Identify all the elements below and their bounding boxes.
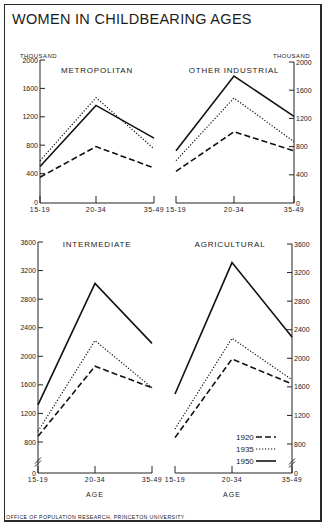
y-tick-label: 800: [296, 143, 308, 150]
y-tick-label: 1200: [296, 115, 312, 122]
x-tick-label: 35-49: [144, 206, 164, 213]
unit-label-right: THOUSAND: [273, 53, 310, 59]
series-line-1920: [38, 366, 152, 436]
x-tick-label: 35-49: [142, 476, 162, 483]
y-tick-label: 0: [32, 470, 36, 477]
y-tick-label: 1600: [294, 383, 310, 390]
legend-label-1950: 1950: [236, 457, 254, 466]
x-tick-label: 15-19: [165, 476, 185, 483]
y-tick-label: 1600: [296, 87, 312, 94]
legend-label-1935: 1935: [236, 445, 254, 454]
x-tick-label: 20-34: [86, 206, 106, 213]
series-line-1935: [38, 341, 152, 432]
y-tick-label: 400: [26, 170, 38, 177]
y-tick-label: 2000: [294, 355, 310, 362]
series-line-1920: [176, 132, 294, 172]
chart-panel-metropolitan: 15-1920-3435-490400800120016002000METROP…: [22, 57, 164, 214]
y-tick-label: 3200: [294, 269, 310, 276]
y-tick-label: 1600: [22, 85, 38, 92]
y-tick-label: 0: [294, 470, 298, 477]
panel-title: INTERMEDIATE: [63, 240, 132, 249]
series-line-1920: [40, 147, 154, 178]
panel-title: METROPOLITAN: [61, 66, 133, 75]
y-tick-label: 800: [26, 142, 38, 149]
y-tick-label: 2800: [294, 298, 310, 305]
source-credit: OFFICE OF POPULATION RESEARCH, PRINCETON…: [6, 514, 185, 520]
y-tick-label: 3200: [20, 267, 36, 274]
y-tick-label: 1200: [294, 412, 310, 419]
panel-title: OTHER INDUSTRIAL: [189, 66, 280, 75]
x-tick-label: 20-34: [85, 476, 105, 483]
y-tick-label: 0: [34, 199, 38, 206]
y-tick-label: 1200: [22, 113, 38, 120]
series-line-1950: [175, 263, 292, 394]
series-line-1920: [175, 359, 292, 438]
y-tick-label: 2800: [20, 296, 36, 303]
y-tick-label: 2400: [294, 326, 310, 333]
charts-canvas: 15-1920-3435-490400800120016002000METROP…: [0, 0, 328, 529]
x-tick-label: 35-49: [282, 476, 302, 483]
panel-title: AGRICULTURAL: [195, 240, 266, 249]
y-tick-label: 3600: [294, 241, 310, 248]
y-tick-label: 400: [296, 171, 308, 178]
x-tick-label: 20-34: [222, 476, 242, 483]
x-tick-label: 15-19: [166, 206, 186, 213]
legend: 192019351950: [236, 433, 276, 466]
series-line-1950: [40, 105, 154, 166]
x-tick-label: 35-49: [284, 206, 304, 213]
series-line-1950: [38, 283, 152, 405]
series-line-1935: [176, 98, 294, 161]
x-axis-label: AGE: [86, 491, 104, 498]
y-tick-label: 800: [294, 441, 306, 448]
y-tick-label: 2400: [20, 324, 36, 331]
series-line-1950: [176, 76, 294, 151]
y-tick-label: 0: [296, 200, 300, 207]
y-tick-label: 3600: [20, 239, 36, 246]
unit-label-left: THOUSAND: [20, 53, 57, 59]
x-tick-label: 15-19: [28, 476, 48, 483]
x-tick-label: 20-34: [224, 206, 244, 213]
x-tick-label: 15-19: [30, 206, 50, 213]
y-tick-label: 1600: [20, 381, 36, 388]
y-tick-label: 2000: [296, 59, 312, 66]
y-tick-label: 2000: [20, 353, 36, 360]
y-tick-label: 800: [24, 439, 36, 446]
chart-panel-other-industrial: 15-1920-3435-490400800120016002000OTHER …: [166, 59, 312, 214]
x-axis-label: AGE: [223, 491, 241, 498]
chart-panel-intermediate: 15-1920-3435-490800120016002000240028003…: [20, 239, 162, 499]
y-tick-label: 1200: [20, 410, 36, 417]
legend-label-1920: 1920: [236, 433, 254, 442]
